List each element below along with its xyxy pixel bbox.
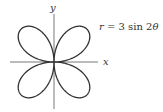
equation-label: r = 3 sin 2θ bbox=[99, 21, 158, 32]
x-axis-label: x bbox=[103, 56, 109, 67]
y-axis-label: y bbox=[49, 2, 56, 13]
polar-plot: y x r = 3 sin 2θ bbox=[0, 0, 163, 112]
